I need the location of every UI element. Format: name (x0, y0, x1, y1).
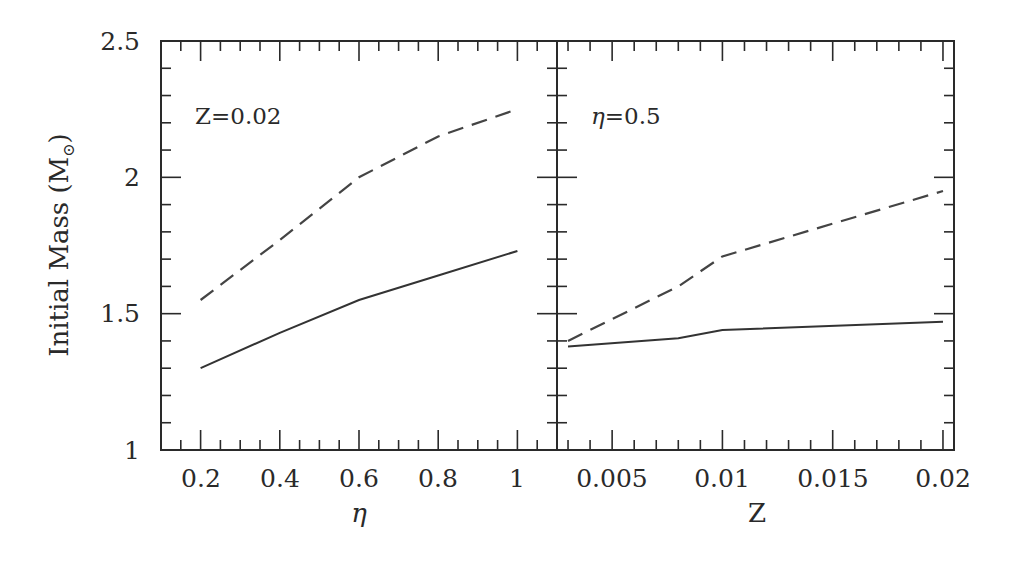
right-x-axis-label: Z (748, 498, 766, 528)
y-tick-label: 2.5 (100, 27, 140, 56)
y-tick-label: 1.5 (100, 299, 140, 328)
x-tick-label: 0.6 (339, 464, 379, 493)
right-panel-annotation: η=0.5 (591, 103, 661, 129)
x-tick-label: 0.005 (576, 464, 648, 493)
left-x-axis-label: η (351, 498, 367, 528)
y-axis-label-text: Initial Mass (M (44, 157, 74, 357)
x-tick-label: 0.015 (797, 464, 869, 493)
y-tick-label: 2 (124, 163, 140, 192)
chart-figure: 1 1.5 2 2.5 0.2 0.4 0.6 0.8 1 0.005 0.01… (0, 0, 1025, 561)
left-panel-annotation: Z=0.02 (195, 103, 281, 129)
x-tick-label: 0.02 (915, 464, 971, 493)
y-axis-label-close: ) (44, 133, 74, 143)
dashed-series-line (568, 191, 943, 341)
sun-symbol: ⊙ (59, 143, 78, 156)
svg-text:Initial Mass (M⊙): Initial Mass (M⊙) (44, 133, 78, 357)
x-tick-label: 0.01 (694, 464, 750, 493)
x-tick-label: 0.8 (418, 464, 458, 493)
x-tick-label: 0.4 (260, 464, 300, 493)
eta-symbol: η (591, 103, 605, 129)
eta-value: =0.5 (605, 103, 661, 129)
solid-series-line (201, 251, 518, 368)
y-axis-label: Initial Mass (M⊙) (44, 133, 78, 357)
x-tick-label: 1 (509, 464, 525, 493)
x-tick-label: 0.2 (181, 464, 221, 493)
solid-series-line (568, 322, 943, 347)
dashed-series-line (201, 109, 518, 300)
data-lines (201, 109, 943, 368)
y-tick-label: 1 (124, 436, 140, 465)
